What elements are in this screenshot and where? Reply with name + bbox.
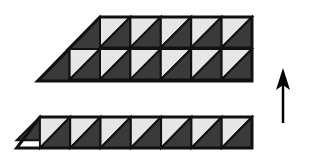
up-arrow-icon <box>276 68 290 123</box>
figure <box>0 0 309 152</box>
bottom-parallelogram-strip <box>17 117 252 148</box>
top-parallelogram-strip <box>38 17 252 81</box>
figure-canvas <box>0 0 309 152</box>
